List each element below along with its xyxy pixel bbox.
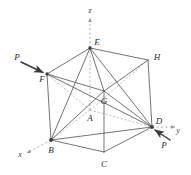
edge-B-C xyxy=(51,140,104,152)
edge-H-D xyxy=(148,60,152,127)
force-label-P-left: P xyxy=(14,53,20,62)
edge-B-D xyxy=(51,127,152,140)
vertex-label-F: F xyxy=(39,75,45,84)
vertex-label-H: H xyxy=(154,53,161,62)
vertex-dot-E xyxy=(88,46,91,49)
cube-force-diagram: E H F G A D B C z y x P P xyxy=(0,0,191,175)
edge-A-D xyxy=(90,110,152,127)
edge-F-B xyxy=(47,74,51,140)
axis-label-z: z xyxy=(88,7,91,15)
vertex-label-G: G xyxy=(101,97,108,106)
vertex-dot-D xyxy=(150,125,154,129)
edge-E-B xyxy=(51,48,90,140)
vertex-label-A: A xyxy=(87,114,93,123)
cube-edges-group xyxy=(47,48,152,152)
axis-label-y: y xyxy=(176,127,180,135)
edge-E-H xyxy=(90,48,148,60)
edge-C-D xyxy=(104,127,152,152)
edge-E-G xyxy=(90,48,104,91)
axes-group xyxy=(27,18,175,153)
edge-B-G xyxy=(51,91,104,140)
force-arrow-at-D xyxy=(155,130,170,140)
vertex-dot-F xyxy=(45,72,48,75)
hidden-edges-group xyxy=(47,48,152,140)
vertex-label-D: D xyxy=(156,117,163,126)
edge-H-G xyxy=(104,60,148,91)
force-arrow-at-F xyxy=(21,62,43,73)
edge-F-D xyxy=(47,74,152,127)
edge-E-D xyxy=(90,48,152,127)
force-label-P-right: P xyxy=(161,141,167,150)
vertex-label-C: C xyxy=(101,160,107,169)
vertex-label-E: E xyxy=(94,38,100,47)
vertex-dot-B xyxy=(49,138,53,142)
edge-F-E xyxy=(47,48,90,74)
vertex-label-B: B xyxy=(48,146,54,155)
axis-label-x: x xyxy=(18,151,22,159)
